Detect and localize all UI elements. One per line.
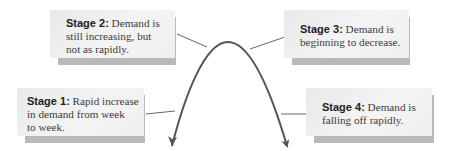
stage-2-text-2: still increasing, but <box>66 30 151 42</box>
stage-2-text-3: not as rapidly. <box>66 43 129 55</box>
stage-4-text-2: falling off rapidly. <box>322 114 403 126</box>
stage-2-label: Stage 2: <box>66 17 109 29</box>
stage-3-text-2: beginning to decrease. <box>300 36 400 48</box>
connector-stage-2 <box>177 34 207 47</box>
stage-1-label: Stage 1: <box>27 95 70 107</box>
connector-stage-1 <box>146 111 175 114</box>
left-arrowhead-icon <box>168 136 177 146</box>
stage-1-text-1: Rapid increase <box>70 95 139 107</box>
stage-4-text-1: Demand is <box>365 101 416 113</box>
curve-path <box>172 42 287 146</box>
connector-stage-3 <box>250 37 285 49</box>
stage-1-text-2: in demand from week <box>27 108 125 120</box>
stage-2-text-1: Demand is <box>109 17 160 29</box>
stage-1-text-3: to week. <box>27 121 65 133</box>
stage-4-label: Stage 4: <box>322 101 365 113</box>
stage-3-label: Stage 3: <box>300 23 343 35</box>
stage-3-text-1: Demand is <box>343 23 394 35</box>
